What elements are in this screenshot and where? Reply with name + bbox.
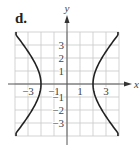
y-tick-label: −3 <box>52 117 64 129</box>
y-tick-label: −2 <box>52 104 64 116</box>
y-tick-label: 1 <box>59 65 65 77</box>
x-tick-label: −3 <box>22 85 34 97</box>
x-axis-arrow-icon <box>124 82 132 87</box>
x-tick-label: 3 <box>103 85 109 97</box>
hyperbola-plot: xy −3−113321−1−2−3 <box>0 0 140 154</box>
y-tick-label: 2 <box>59 52 65 64</box>
y-axis-arrow-icon <box>65 15 70 23</box>
y-tick-label: −1 <box>52 91 64 103</box>
y-tick-label: 3 <box>59 39 65 51</box>
y-axis-label: y <box>64 2 70 14</box>
x-axis-label: x <box>133 78 139 90</box>
x-tick-label: 1 <box>77 85 83 97</box>
